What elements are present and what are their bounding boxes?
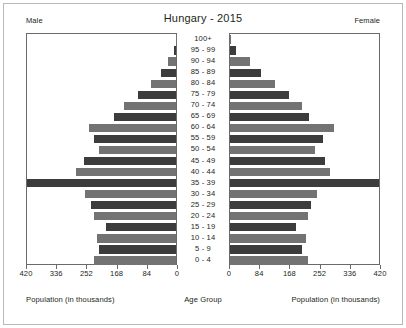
male-bar-row [27,211,176,222]
female-bar [230,91,289,99]
right-axis-caption: Population (in thousands) [291,295,380,304]
female-bar-row [230,156,379,167]
female-bar [230,57,250,65]
male-bar-row [27,233,176,244]
axis-tick-label: 252 [313,269,326,278]
age-group-label: 55 - 59 [177,132,229,143]
female-bar-row [230,67,379,78]
male-bar-row [27,45,176,56]
male-bar [151,80,176,88]
female-bar-row [230,189,379,200]
male-bar [76,168,176,176]
axis-tick-label: 420 [374,269,387,278]
axis-tick-label: 420 [20,269,33,278]
female-bar [230,35,231,43]
female-bar-row [230,144,379,155]
female-bar [230,179,379,187]
page-title: Hungary - 2015 [0,12,406,24]
age-group-label: 90 - 94 [177,55,229,66]
male-bar [94,256,176,264]
male-bar [168,57,176,65]
age-group-label: 75 - 79 [177,88,229,99]
male-bar-row [27,67,176,78]
female-bar [230,146,315,154]
axis-tick-label: 168 [110,269,123,278]
population-pyramid-chart: Male Hungary - 2015 Female 100+95 - 9990… [0,0,406,328]
female-bar-row [230,200,379,211]
male-bar [114,113,176,121]
female-bar [230,256,308,264]
age-group-label: 95 - 99 [177,44,229,55]
age-group-label: 10 - 14 [177,232,229,243]
age-group-label: 30 - 34 [177,188,229,199]
male-bar [85,190,176,198]
male-bar [94,135,176,143]
axis-tick-label: 252 [80,269,93,278]
female-bar-row [230,89,379,100]
female-bar-row [230,34,379,45]
age-group-label: 35 - 39 [177,177,229,188]
age-group-label: 85 - 89 [177,66,229,77]
female-bar-row [230,45,379,56]
axis-tick-label: 0 [175,269,179,278]
age-group-label: 15 - 19 [177,221,229,232]
female-bar [230,245,302,253]
male-bar-row [27,111,176,122]
male-bar [106,223,176,231]
left-value-axis: 420336252168840 [26,265,177,275]
male-plot-area [26,33,177,265]
female-bar-row [230,133,379,144]
female-bar [230,69,261,77]
male-bar-row [27,244,176,255]
age-group-label: 65 - 69 [177,110,229,121]
female-bar [230,201,311,209]
female-bar-row [230,178,379,189]
male-bar-row [27,156,176,167]
male-bar [99,146,176,154]
female-bar-row [230,244,379,255]
female-bar [230,113,309,121]
right-value-axis: 084168252336420 [229,265,380,275]
male-bar-row [27,222,176,233]
age-group-label: 40 - 44 [177,166,229,177]
female-bar [230,234,306,242]
male-bar [89,124,176,132]
male-bar [124,102,177,110]
male-bar [84,157,176,165]
male-bar-row [27,56,176,67]
male-bar-row [27,34,176,45]
male-bar-row [27,167,176,178]
male-bar [174,46,176,54]
female-bar [230,157,325,165]
female-bar [230,135,323,143]
female-bar-row [230,167,379,178]
age-group-label: 20 - 24 [177,210,229,221]
male-bar-row [27,200,176,211]
female-bar [230,212,308,220]
female-bar-row [230,111,379,122]
female-legend-label: Female [354,16,380,25]
male-bar-row [27,100,176,111]
female-bar [230,124,334,132]
female-bar-row [230,222,379,233]
age-group-label: 25 - 29 [177,199,229,210]
female-bar [230,80,275,88]
male-bar [99,245,176,253]
male-bar [27,179,176,187]
male-bar [161,69,176,77]
female-bar-rows [230,34,379,264]
male-bar-row [27,178,176,189]
female-bar [230,46,236,54]
age-group-label: 70 - 74 [177,99,229,110]
age-group-label: 5 - 9 [177,243,229,254]
age-group-label: 60 - 64 [177,121,229,132]
male-bar [91,201,176,209]
axis-tick-label: 336 [50,269,63,278]
age-group-label: 45 - 49 [177,155,229,166]
male-bar-row [27,189,176,200]
age-group-label: 0 - 4 [177,254,229,265]
male-bar-row [27,144,176,155]
female-bar-row [230,233,379,244]
axis-tick-label: 0 [227,269,231,278]
axis-tick-label: 336 [343,269,356,278]
